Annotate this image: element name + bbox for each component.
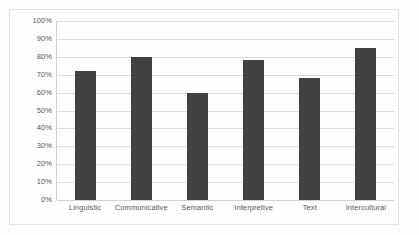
y-tick-label: 100% [12,17,52,25]
gridline-90% [57,39,394,40]
y-tick-label: 80% [12,53,52,61]
bar-interpretive [243,60,264,200]
gridline-70% [57,75,394,76]
gridline-0% [57,200,394,201]
y-tick-label: 90% [12,35,52,43]
gridline-20% [57,164,394,165]
y-tick-label: 50% [12,107,52,115]
gridline-60% [57,93,394,94]
gridline-80% [57,57,394,58]
bar-intercultural [355,48,376,200]
bar-linguistic [75,71,96,200]
x-tick-label-intercultural: Intercultural [346,204,387,212]
gridline-30% [57,146,394,147]
y-tick-label: 40% [12,125,52,133]
gridline-10% [57,182,394,183]
x-tick-label-text: Text [303,204,317,212]
bar-text [299,78,320,200]
y-tick-label: 20% [12,160,52,168]
x-tick-label-linguistic: Linguistic [69,204,101,212]
y-tick-label: 30% [12,143,52,151]
chart-container: 0%10%20%30%40%50%60%70%80%90%100% Lingui… [9,9,399,225]
gridline-100% [57,21,394,22]
gridline-40% [57,128,394,129]
y-tick-label: 70% [12,71,52,79]
y-axis-tick-labels: 0%10%20%30%40%50%60%70%80%90%100% [10,10,54,226]
y-tick-label: 60% [12,89,52,97]
x-tick-label-interpretive: Interpretive [234,204,273,212]
y-tick-label: 10% [12,178,52,186]
bar-communicative [131,57,152,200]
x-tick-label-communicative: Communicative [115,204,168,212]
x-axis-category-labels: LinguisticCommunicativeSemanticInterpret… [57,204,394,222]
y-tick-label: 0% [12,196,52,204]
gridline-50% [57,111,394,112]
bar-semantic [187,93,208,200]
plot-area [57,21,394,200]
x-tick-label-semantic: Semantic [181,204,213,212]
